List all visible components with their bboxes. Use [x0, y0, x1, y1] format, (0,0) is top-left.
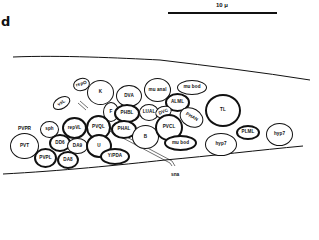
cell-label: Y/PDA — [108, 154, 123, 159]
cell-label: TL — [220, 108, 226, 113]
cell-label: repVL — [68, 126, 82, 131]
cell-mu-bod-bottom: mu bod — [164, 135, 197, 151]
cell-label: LUAL — [143, 110, 156, 115]
cell-label: DA9 — [73, 144, 83, 149]
cell-label: PVPL — [39, 156, 51, 161]
cell-label: hyp7 — [274, 132, 285, 137]
cell-hyp7-right: hyp7 — [266, 123, 293, 146]
cell-label: K — [99, 90, 102, 95]
cell-Y-PDA: Y/PDA — [100, 148, 130, 165]
cell-label: PHBL — [121, 111, 134, 116]
cell-label: PVT — [20, 144, 29, 149]
cell-label: hyp7 — [215, 142, 226, 147]
cell-label: DD6 — [55, 141, 65, 146]
cell-label: vsL — [57, 99, 67, 107]
cell-label: PLML — [242, 130, 255, 135]
label-PVPR: PVPR — [18, 126, 31, 131]
cell-DA8: DA8 — [57, 151, 79, 169]
cell-label: PVCL — [163, 125, 176, 130]
cell-TL: TL — [205, 94, 241, 127]
cell-PVPL: PVPL — [34, 148, 57, 168]
cell-label: F — [110, 110, 113, 115]
cell-label: PHAN — [184, 112, 198, 123]
cell-label: ALML — [171, 100, 184, 105]
cell-label: mu bod — [172, 141, 189, 146]
cell-PLML: PLML — [236, 125, 260, 140]
cell-label: B — [144, 135, 147, 140]
cell-label: DVA — [124, 94, 134, 99]
label-sna: sna — [171, 172, 179, 177]
cell-label: mu anal — [148, 88, 166, 93]
cell-label: mu bod — [183, 85, 200, 90]
cell-label: DA8 — [63, 158, 73, 163]
cell-hyp7-left: hyp7 — [205, 133, 237, 156]
cell-label: U — [97, 144, 100, 149]
cell-label: repO — [76, 81, 88, 89]
cell-label: PVQL — [92, 125, 105, 130]
cell-label: PHAL — [118, 127, 131, 132]
cell-label: sph — [45, 127, 53, 132]
